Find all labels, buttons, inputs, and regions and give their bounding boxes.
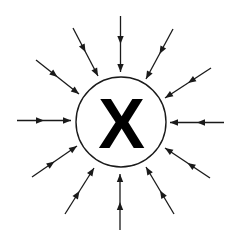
arrowhead-icon xyxy=(160,45,167,54)
arrow-top-right xyxy=(146,29,173,79)
arrowhead-icon xyxy=(188,163,196,170)
arrowhead-icon xyxy=(63,117,71,123)
arrow-bottom xyxy=(117,174,123,230)
arrow-left-lower xyxy=(32,146,77,177)
arrowhead-icon xyxy=(36,117,44,123)
arrowhead-icon xyxy=(91,67,98,76)
center-label: X xyxy=(98,85,145,163)
arrowhead-icon xyxy=(165,148,173,155)
arrowhead-icon xyxy=(170,119,178,125)
arrowhead-icon xyxy=(46,162,54,169)
arrow-top-left xyxy=(73,28,98,76)
arrow-right xyxy=(170,119,224,125)
arrowhead-icon xyxy=(165,91,173,98)
arrowhead-icon xyxy=(160,191,167,200)
arrowhead-icon xyxy=(79,43,86,52)
arrowhead-icon xyxy=(73,191,80,199)
arrow-bottom-left xyxy=(65,168,94,214)
arrowhead-icon xyxy=(117,64,123,72)
arrow-right-lower xyxy=(165,148,210,178)
arrowhead-icon xyxy=(188,76,196,83)
arrow-top xyxy=(117,16,123,72)
arrowhead-icon xyxy=(117,202,123,210)
arrow-right-upper xyxy=(165,68,211,98)
arrowhead-icon xyxy=(117,174,123,182)
arrowhead-icon xyxy=(117,36,123,44)
arrow-left-upper xyxy=(36,60,79,94)
arrowhead-icon xyxy=(87,168,94,176)
arrow-bottom-right xyxy=(146,167,174,214)
arrowhead-icon xyxy=(69,146,77,153)
arrowhead-icon xyxy=(146,70,153,79)
inward-flow-diagram: X xyxy=(0,0,237,241)
arrow-left xyxy=(17,117,71,123)
arrowhead-icon xyxy=(197,119,205,125)
arrowhead-icon xyxy=(146,167,153,176)
